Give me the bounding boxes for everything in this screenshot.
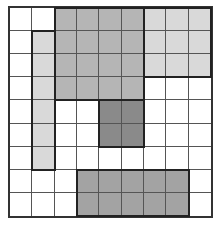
grid-cell: [10, 124, 32, 147]
grid-cell: [99, 100, 121, 123]
grid-cell: [189, 54, 211, 77]
grid-cell: [99, 147, 121, 170]
grid-cell: [10, 8, 32, 31]
grid-cell: [144, 54, 166, 77]
grid-cell: [99, 8, 121, 31]
grid-cell: [122, 54, 144, 77]
grid-cell: [122, 100, 144, 123]
grid-cell: [55, 170, 77, 193]
grid-cell: [144, 100, 166, 123]
grid-cell: [166, 31, 188, 54]
grid-cell: [55, 124, 77, 147]
grid-cell: [144, 31, 166, 54]
grid-cell: [10, 54, 32, 77]
grid-cell: [32, 124, 54, 147]
grid-cell: [32, 31, 54, 54]
grid-cell: [144, 77, 166, 100]
grid-cell: [77, 147, 99, 170]
grid-cell: [122, 170, 144, 193]
grid-cell: [166, 54, 188, 77]
grid-cell: [77, 124, 99, 147]
grid-cell: [32, 170, 54, 193]
grid-cell: [55, 54, 77, 77]
grid-cell: [99, 193, 121, 216]
grid-cell: [32, 100, 54, 123]
grid-cell: [77, 31, 99, 54]
grid-cell: [99, 124, 121, 147]
grid-cell: [55, 193, 77, 216]
grid-cell: [32, 193, 54, 216]
grid-cell: [99, 54, 121, 77]
grid-cell: [77, 8, 99, 31]
grid-cell: [166, 77, 188, 100]
grid-cell: [99, 77, 121, 100]
grid-cell: [166, 124, 188, 147]
grid-cell: [144, 147, 166, 170]
grid-cell: [166, 100, 188, 123]
grid-cell: [32, 8, 54, 31]
grid-cell: [189, 124, 211, 147]
grid-cell: [122, 124, 144, 147]
grid-cell: [122, 8, 144, 31]
grid-cell: [189, 193, 211, 216]
grid-cell: [10, 77, 32, 100]
grid-cell: [55, 77, 77, 100]
grid-cell: [55, 100, 77, 123]
grid-cell: [189, 170, 211, 193]
grid-cell: [122, 193, 144, 216]
grid-cell: [144, 124, 166, 147]
grid-cell: [77, 54, 99, 77]
grid-cell: [99, 170, 121, 193]
grid-cell: [32, 77, 54, 100]
grid-cell: [122, 31, 144, 54]
grid-cell: [144, 193, 166, 216]
grid-cell: [189, 8, 211, 31]
grid-cell: [55, 8, 77, 31]
grid-cell: [144, 8, 166, 31]
grid-cell: [77, 193, 99, 216]
grid-cell: [32, 54, 54, 77]
grid-cell: [189, 77, 211, 100]
grid-cell: [55, 31, 77, 54]
grid-cell: [77, 100, 99, 123]
grid-cell: [166, 8, 188, 31]
grid-cell: [144, 170, 166, 193]
grid-cell: [77, 170, 99, 193]
grid-cell: [10, 193, 32, 216]
grid-cell: [189, 31, 211, 54]
grid-cell: [189, 147, 211, 170]
grid-cell: [10, 147, 32, 170]
grid-cell: [10, 100, 32, 123]
grid-cell: [166, 193, 188, 216]
grid-cell: [99, 31, 121, 54]
grid-cell: [189, 100, 211, 123]
grid-cell: [55, 147, 77, 170]
grid-cell: [166, 170, 188, 193]
grid-cell: [122, 147, 144, 170]
grid-cell: [10, 31, 32, 54]
grid-cell: [32, 147, 54, 170]
grid-cell: [77, 77, 99, 100]
shaded-grid: [8, 6, 213, 218]
grid-cell: [166, 147, 188, 170]
grid-cell: [10, 170, 32, 193]
grid-cell: [122, 77, 144, 100]
